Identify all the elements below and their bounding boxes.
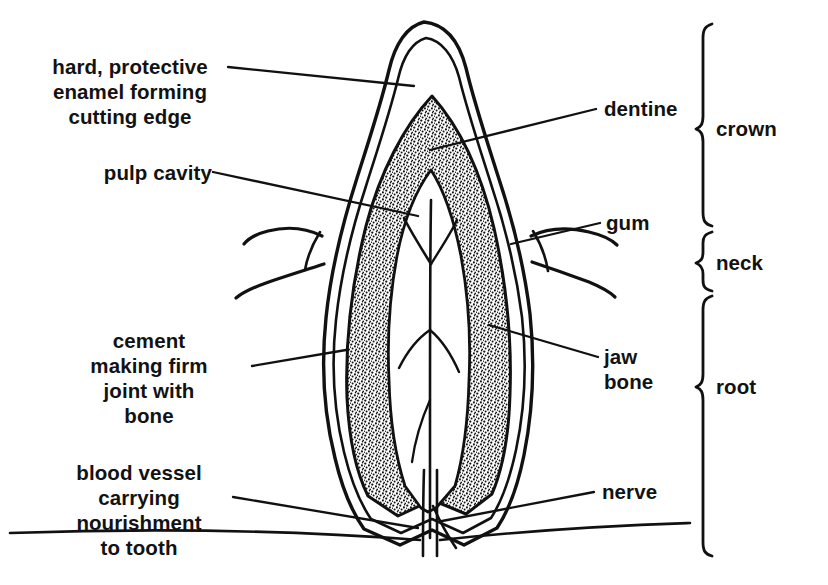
label-root: root (716, 374, 816, 399)
bracket-crown (696, 24, 712, 226)
label-neck: neck (716, 250, 816, 275)
label-blood-vessel: blood vessel carrying nourishment to too… (44, 460, 234, 560)
label-crown: crown (716, 116, 826, 141)
gum-left-lower (236, 264, 324, 298)
bracket-neck (696, 232, 712, 291)
label-jaw-bone: jaw bone (604, 344, 694, 394)
label-gum: gum (606, 210, 696, 235)
label-pulp-cavity: pulp cavity (34, 160, 212, 185)
label-nerve: nerve (602, 479, 702, 504)
gum-right-lower (532, 262, 615, 297)
label-cement: cement making firm joint with bone (50, 328, 248, 428)
diagram-canvas: hard, protective enamel forming cutting … (0, 0, 828, 585)
label-enamel: hard, protective enamel forming cutting … (26, 54, 234, 129)
gum-left-fold (305, 232, 320, 270)
root-canal-left-wall (423, 470, 424, 556)
label-dentine: dentine (604, 96, 714, 121)
gum-left-upper (244, 228, 322, 244)
leader-gum (511, 223, 600, 244)
bracket-root (696, 296, 712, 556)
pulp-nerve-strand-main (430, 200, 431, 538)
